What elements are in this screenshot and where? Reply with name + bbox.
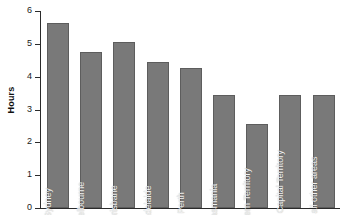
plot-area: SydneyMelbourneBrisbaneAdelaidePerthTasm… (41, 11, 340, 208)
y-tick-5 (35, 44, 40, 45)
x-axis-line (40, 208, 340, 209)
bar: Brisbane (113, 42, 135, 208)
y-tick-label-1: 1 (10, 170, 32, 179)
y-tick-label-6: 6 (10, 6, 32, 15)
bar-label: Brisbane (104, 185, 124, 215)
bar-label: Australian Capital Territory (270, 150, 290, 215)
y-axis-title: Hours (6, 77, 16, 123)
bar: Sydney (47, 23, 69, 209)
y-tick-1 (35, 175, 40, 176)
bar-chart: Hours 0123456 SydneyMelbourneBrisbaneAde… (0, 0, 345, 215)
y-tick-label-4: 4 (10, 72, 32, 81)
y-tick-2 (35, 142, 40, 143)
y-tick-6 (35, 11, 40, 12)
bar: Tasmania (213, 95, 235, 208)
y-tick-label-5: 5 (10, 39, 32, 48)
bar-label: Adelaide (138, 185, 158, 215)
y-tick-label-3: 3 (10, 105, 32, 114)
bar-label: Average all other areas (304, 157, 324, 215)
bar: Perth (180, 68, 202, 208)
y-tick-0 (35, 208, 40, 209)
bar-label: Tasmania (204, 184, 224, 215)
bar: Northern Territory (246, 124, 268, 208)
bar-label: Sydney (38, 188, 58, 215)
bar: Australian Capital Territory (279, 95, 301, 208)
y-tick-label-2: 2 (10, 137, 32, 146)
bar-label: Melbourne (71, 182, 91, 215)
bar-label: Northern Territory (237, 168, 257, 215)
bar-label: Perth (171, 192, 191, 214)
y-tick-4 (35, 77, 40, 78)
y-tick-3 (35, 110, 40, 111)
y-tick-label-0: 0 (10, 203, 32, 212)
bar: Adelaide (147, 62, 169, 208)
bar: Average all other areas (313, 95, 335, 208)
bar: Melbourne (80, 52, 102, 208)
